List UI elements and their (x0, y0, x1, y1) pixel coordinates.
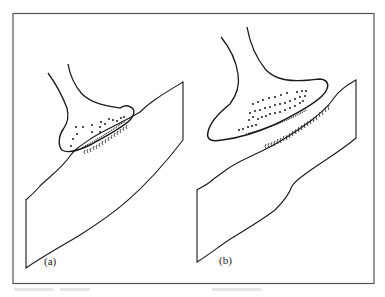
axon-b (221, 37, 239, 104)
axon-b-right (247, 27, 310, 81)
faint-caption-mark (212, 288, 262, 291)
axon-a-right (68, 64, 120, 108)
postsynaptic-membrane-a (26, 82, 183, 268)
synapse-diagram (0, 0, 385, 297)
panel-label-a: (a) (44, 256, 56, 267)
faint-caption-mark (14, 288, 54, 291)
postsynaptic-membrane-b (197, 80, 356, 262)
panel-a (26, 64, 183, 268)
faint-caption-mark (60, 288, 90, 291)
axon-a (48, 73, 68, 128)
panel-b (197, 27, 356, 262)
panel-label-b: (b) (219, 255, 232, 266)
